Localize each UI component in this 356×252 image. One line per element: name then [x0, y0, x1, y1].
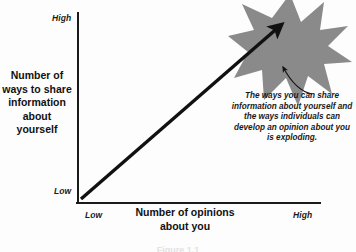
figure-chart: High Low Low High Number of ways to shar… [0, 0, 356, 252]
y-axis-title-line: Number of [0, 69, 74, 83]
x-axis-low-label: Low [85, 210, 102, 220]
y-axis-high-label: High [52, 13, 71, 23]
annotation-line: is exploding. [229, 133, 355, 144]
x-axis-high-label: High [293, 210, 312, 220]
x-axis-title-line: about you [120, 220, 250, 234]
y-axis-title-line: information [0, 96, 74, 110]
annotation-line: information about yourself and [229, 102, 355, 113]
annotation-line: the ways individuals can [229, 112, 355, 123]
y-axis-title-line: about [0, 110, 74, 124]
y-axis-title-line: yourself [0, 123, 74, 137]
y-axis-title-line: ways to share [0, 83, 74, 97]
x-axis-title: Number of opinions about you [120, 206, 250, 233]
annotation-line: develop an opinion about you [229, 123, 355, 134]
x-axis-title-line: Number of opinions [120, 206, 250, 220]
y-axis-low-label: Low [54, 186, 71, 196]
annotation-line: The ways you can share [229, 91, 355, 102]
figure-caption: Figure 1.1 [0, 245, 356, 252]
y-axis-title: Number of ways to share information abou… [0, 69, 74, 137]
annotation-text: The ways you can share information about… [229, 91, 355, 144]
